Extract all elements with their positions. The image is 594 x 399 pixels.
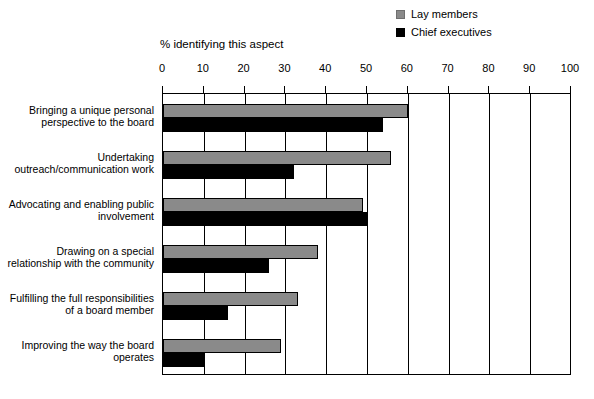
bar-chief-executives [163, 259, 269, 273]
x-tick-mark [488, 86, 489, 93]
x-tick-mark [162, 86, 163, 93]
category-labels: Bringing a unique personal perspective t… [0, 93, 158, 375]
x-tick-label: 20 [237, 62, 249, 74]
x-tick-mark [570, 86, 571, 93]
bar-series-container [163, 94, 570, 374]
x-tick-mark [203, 86, 204, 93]
x-tick-mark [366, 86, 367, 93]
x-tick-mark [407, 86, 408, 93]
bar-lay-members [163, 292, 298, 306]
x-tick-label: 10 [197, 62, 209, 74]
x-tick-label: 40 [319, 62, 331, 74]
bar-lay-members [163, 151, 391, 165]
x-tick-mark [448, 86, 449, 93]
x-tick-label: 80 [482, 62, 494, 74]
bar-lay-members [163, 339, 281, 353]
category-label: Bringing a unique personal perspective t… [0, 104, 154, 129]
x-tick-mark [529, 86, 530, 93]
bar-chief-executives [163, 306, 228, 320]
bar-chief-executives [163, 118, 383, 132]
x-tick-mark [284, 86, 285, 93]
x-tick-label: 60 [401, 62, 413, 74]
category-label: Improving the way the board operates [0, 339, 154, 364]
bar-lay-members [163, 104, 408, 118]
bar-chief-executives [163, 165, 294, 179]
x-tick-label: 30 [278, 62, 290, 74]
x-tick-mark [325, 86, 326, 93]
chart-plot-area: 0102030405060708090100 Bringing a unique… [0, 0, 594, 399]
bar-chief-executives [163, 212, 367, 226]
category-label: Undertaking outreach/communication work [0, 151, 154, 176]
x-tick-label: 70 [441, 62, 453, 74]
category-label: Drawing on a special relationship with t… [0, 245, 154, 270]
bar-lay-members [163, 198, 363, 212]
category-label: Fulfilling the full responsibilities of … [0, 292, 154, 317]
x-tick-label: 90 [523, 62, 535, 74]
category-label: Advocating and enabling public involveme… [0, 198, 154, 223]
x-tick-label: 100 [561, 62, 579, 74]
x-tick-label: 50 [360, 62, 372, 74]
x-axis-tick-labels: 0102030405060708090100 [162, 62, 571, 76]
x-tick-mark [244, 86, 245, 93]
bar-lay-members [163, 245, 318, 259]
x-tick-label: 0 [159, 62, 165, 74]
bar-chief-executives [163, 353, 204, 367]
